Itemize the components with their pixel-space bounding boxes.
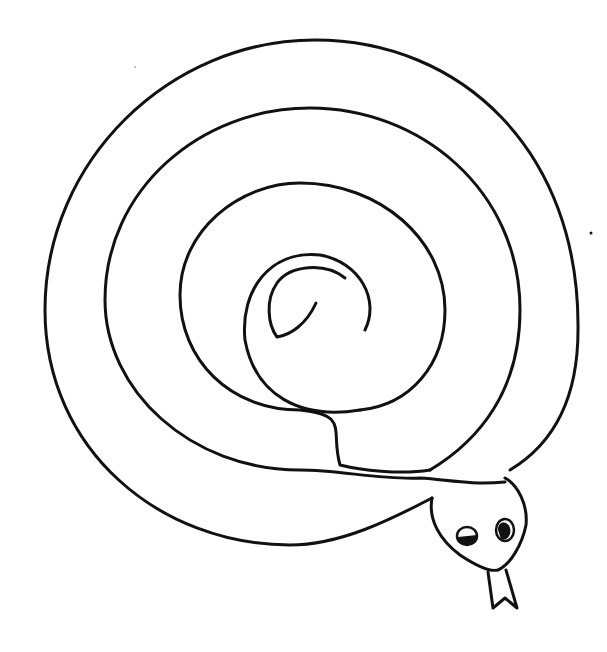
speck xyxy=(134,66,136,68)
spiral-ring-3 xyxy=(180,183,445,472)
spiral-center xyxy=(269,268,345,337)
right-eye xyxy=(496,519,514,541)
spiral-ring-2 xyxy=(105,108,520,483)
speck xyxy=(590,232,593,235)
drawing-canvas: Coiled spiral snake line drawing xyxy=(0,0,607,652)
forked-tongue xyxy=(488,570,517,608)
snake-illustration xyxy=(0,0,607,652)
left-eye xyxy=(457,527,477,545)
spiral-ring-4 xyxy=(244,255,370,413)
